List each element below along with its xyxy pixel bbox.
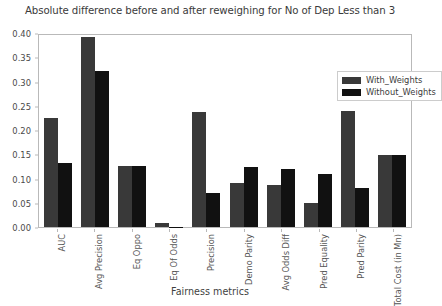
- x-axis-tick-mark: [244, 229, 245, 232]
- x-axis-label: Fairness metrics: [0, 286, 420, 297]
- legend-swatch: [342, 89, 361, 96]
- legend-item: With_Weights: [342, 75, 436, 85]
- bar-without-weights: [392, 155, 406, 227]
- x-axis-tick-label: Eq Oppo: [132, 234, 142, 269]
- x-axis-tick-label: Demo Parity: [244, 234, 254, 285]
- bar-without-weights: [132, 166, 146, 227]
- bar-group: [155, 35, 183, 227]
- bar-without-weights: [95, 71, 109, 227]
- bar-without-weights: [318, 174, 332, 227]
- legend-label: With_Weights: [366, 75, 422, 85]
- bar-group: [267, 35, 295, 227]
- x-axis-tick-mark: [132, 229, 133, 232]
- chart-legend: With_WeightsWithout_Weights: [337, 71, 442, 101]
- bar-group: [230, 35, 258, 227]
- bar-group: [304, 35, 332, 227]
- x-axis-tick-mark: [393, 229, 394, 232]
- bars-layer: [39, 35, 411, 227]
- x-axis-tick-mark: [169, 229, 170, 232]
- bar-group: [192, 35, 220, 227]
- plot-area: With_WeightsWithout_Weights: [38, 34, 412, 228]
- bar-without-weights: [206, 193, 220, 227]
- y-axis-tick-label: 0.15: [12, 150, 31, 160]
- bar-group: [44, 35, 72, 227]
- x-axis-tick-label: Pred Parity: [356, 234, 366, 279]
- bar-with-weights: [378, 155, 392, 227]
- bar-with-weights: [304, 203, 318, 227]
- bar-group: [378, 35, 406, 227]
- chart-title: Absolute difference before and after rew…: [0, 5, 420, 16]
- x-axis-tick-label: Eq Of Odds: [169, 234, 179, 281]
- y-axis-tick-label: 0.25: [12, 102, 31, 112]
- bar-without-weights: [355, 188, 369, 227]
- x-axis-tick-label: Precision: [206, 234, 216, 271]
- y-axis: 0.000.050.100.150.200.250.300.350.40: [0, 34, 38, 228]
- bar-group: [81, 35, 109, 227]
- x-axis-tick-label: AUC: [57, 234, 67, 252]
- y-axis-tick-label: 0.35: [12, 53, 31, 63]
- x-axis-tick-label: Pred Equality: [319, 234, 329, 289]
- legend-label: Without_Weights: [366, 87, 436, 97]
- bar-with-weights: [192, 112, 206, 227]
- bar-without-weights: [244, 167, 258, 227]
- x-axis-tick-mark: [57, 229, 58, 232]
- x-axis-tick-mark: [206, 229, 207, 232]
- y-axis-tick-label: 0.05: [12, 199, 31, 209]
- y-axis-tick-label: 0.30: [12, 78, 31, 88]
- bar-with-weights: [341, 111, 355, 227]
- bar-with-weights: [118, 166, 132, 227]
- y-axis-tick-label: 0.10: [12, 175, 31, 185]
- x-axis-tick-mark: [319, 229, 320, 232]
- bar-with-weights: [44, 118, 58, 227]
- x-axis-tick-mark: [281, 229, 282, 232]
- y-axis-tick-label: 0.00: [12, 223, 31, 233]
- x-axis-tick-mark: [94, 229, 95, 232]
- y-axis-tick-label: 0.40: [12, 29, 31, 39]
- bar-group: [341, 35, 369, 227]
- x-axis: AUCAvg PrecisionEq OppoEq Of OddsPrecisi…: [38, 229, 412, 285]
- legend-item: Without_Weights: [342, 87, 436, 97]
- x-axis-tick-label: Avg Odds Diff: [281, 234, 291, 290]
- y-axis-tick-label: 0.20: [12, 126, 31, 136]
- bar-with-weights: [155, 223, 169, 227]
- legend-swatch: [342, 77, 361, 84]
- bar-group: [118, 35, 146, 227]
- x-axis-tick-label: Avg Precision: [94, 234, 104, 289]
- bar-without-weights: [281, 169, 295, 227]
- bar-with-weights: [267, 185, 281, 227]
- bar-with-weights: [81, 37, 95, 227]
- bar-without-weights: [58, 163, 72, 228]
- x-axis-tick-mark: [356, 229, 357, 232]
- bar-with-weights: [230, 183, 244, 227]
